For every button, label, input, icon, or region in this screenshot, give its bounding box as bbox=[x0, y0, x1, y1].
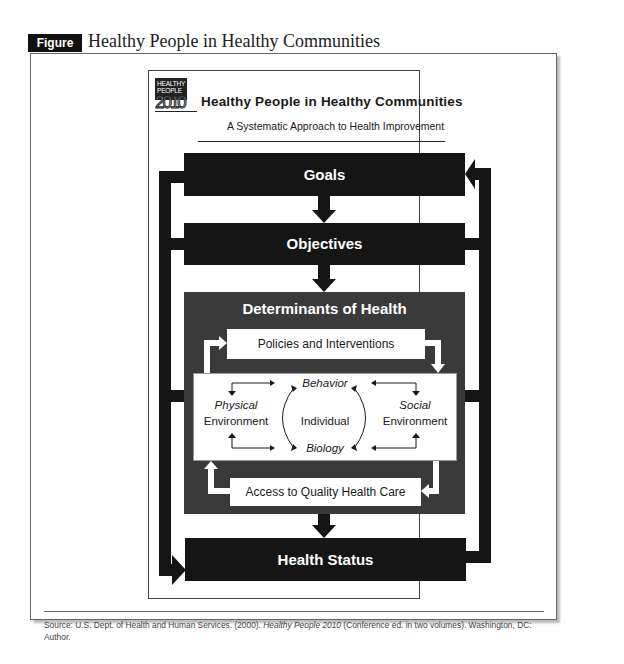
arrow-right-icon bbox=[270, 445, 275, 451]
arrow-down-icon bbox=[412, 391, 420, 396]
social-label: Social bbox=[375, 399, 455, 411]
physical-label: Physical bbox=[196, 399, 276, 411]
social-environment-label: Environment bbox=[375, 415, 455, 427]
arrow-left-icon bbox=[371, 380, 376, 386]
source-citation: Source: U.S. Dept. of Health and Human S… bbox=[44, 619, 544, 643]
arrow-up-icon bbox=[412, 433, 420, 438]
arrow-down-icon bbox=[228, 391, 236, 396]
source-divider bbox=[44, 611, 544, 612]
arrow-left-icon bbox=[371, 445, 376, 451]
left-arc bbox=[283, 389, 294, 447]
arrow-up-icon bbox=[228, 433, 236, 438]
individual-box-arrows bbox=[0, 0, 624, 664]
individual-label: Individual bbox=[293, 415, 357, 427]
biology-label: Biology bbox=[300, 442, 350, 454]
physical-environment-label: Environment bbox=[196, 415, 276, 427]
behavior-label: Behavior bbox=[300, 377, 350, 389]
source-prefix: Source: U.S. Dept. of Health and Human S… bbox=[44, 620, 263, 630]
arrow-right-icon bbox=[270, 380, 275, 386]
source-title: Healthy People 2010 bbox=[263, 620, 341, 630]
